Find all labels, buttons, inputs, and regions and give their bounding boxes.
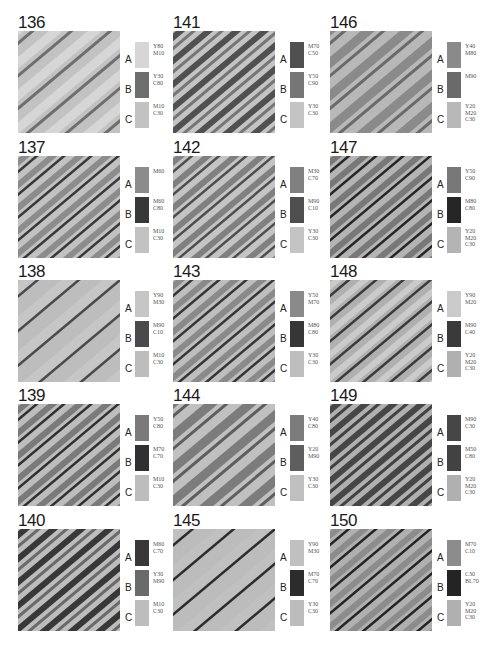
swatch-number: 143 [173, 263, 200, 280]
label-c: C [280, 487, 287, 498]
code-b: M90 C10 [308, 198, 319, 211]
code-a: Y50 M70 [308, 292, 319, 305]
swatch-a [290, 291, 304, 317]
swatch-card-137: 137 A M60 B M60 C80 C M10 C30 [18, 139, 178, 263]
label-b: B [437, 457, 444, 468]
stripe-pattern [18, 280, 120, 382]
swatch-number: 141 [173, 14, 200, 31]
stripe-pattern [173, 31, 275, 133]
label-c: C [280, 239, 287, 250]
code-c: Y30 C30 [308, 476, 318, 489]
swatch-a [135, 540, 149, 566]
swatch-card-138: 138 A Y90 M30 B M90 C10 C M10 C30 [18, 263, 178, 387]
code-c: Y30 C30 [308, 601, 318, 614]
swatch-number: 145 [173, 512, 200, 529]
label-c: C [125, 114, 132, 125]
label-c: C [125, 487, 132, 498]
code-c: Y30 C30 [308, 228, 318, 241]
swatch-b [290, 197, 304, 223]
label-a: A [125, 427, 132, 438]
swatch-a [290, 415, 304, 441]
label-c: C [437, 487, 444, 498]
swatch-b [290, 570, 304, 596]
swatch-number: 138 [18, 263, 45, 280]
label-b: B [437, 84, 444, 95]
label-b: B [125, 582, 132, 593]
swatch-number: 136 [18, 14, 45, 31]
code-b: M60 C80 [153, 198, 164, 211]
code-a: M70 C10 [465, 541, 476, 554]
label-b: B [437, 582, 444, 593]
code-b: M90 C40 [465, 322, 476, 335]
code-b: Y30 C80 [153, 73, 163, 86]
swatch-c [135, 475, 149, 501]
stripe-pattern [173, 280, 275, 382]
swatch-number: 137 [18, 139, 45, 156]
stripe-pattern [18, 31, 120, 133]
label-b: B [125, 84, 132, 95]
swatch-b [447, 570, 461, 596]
code-b: M90 [465, 73, 476, 80]
swatch-number: 140 [18, 512, 45, 529]
code-a: Y40 M80 [465, 43, 476, 56]
stripe-pattern [18, 404, 120, 506]
swatch-b [135, 197, 149, 223]
code-a: M60 [153, 168, 164, 175]
code-c: Y20 M20 C30 [465, 601, 476, 621]
swatch-b [447, 72, 461, 98]
swatch-card-140: 140 A M60 C70 B Y30 M90 C M10 C30 [18, 512, 178, 636]
swatch-number: 147 [330, 139, 357, 156]
code-a: Y40 C80 [308, 416, 318, 429]
label-c: C [437, 363, 444, 374]
code-a: M60 C70 [153, 541, 164, 554]
swatch-c [135, 600, 149, 626]
swatch-a [135, 42, 149, 68]
stripe-pattern [18, 156, 120, 258]
swatch-b [135, 321, 149, 347]
code-c: M10 C30 [153, 601, 164, 614]
swatch-card-141: 141 A M70 C50 B Y50 C90 C Y30 C30 [173, 14, 333, 138]
swatch-b [447, 321, 461, 347]
swatch-card-145: 145 A Y90 M30 B M70 C70 C Y30 C30 [173, 512, 333, 636]
code-c: Y30 C30 [308, 103, 318, 116]
swatch-number: 139 [18, 387, 45, 404]
swatch-a [447, 540, 461, 566]
label-c: C [280, 114, 287, 125]
stripe-pattern [18, 529, 120, 631]
label-b: B [437, 333, 444, 344]
swatch-c [135, 351, 149, 377]
swatch-card-149: 149 A M90 C30 B M50 C80 C Y20 M20 C30 [330, 387, 490, 511]
swatch-card-139: 139 A Y50 C80 B M70 C70 C M10 C30 [18, 387, 178, 511]
label-b: B [280, 582, 287, 593]
swatch-a [290, 42, 304, 68]
code-b: M80 C80 [308, 322, 319, 335]
code-b: M90 C10 [153, 322, 164, 335]
label-b: B [280, 333, 287, 344]
swatch-card-143: 143 A Y50 M70 B M80 C80 C Y30 C30 [173, 263, 333, 387]
code-c: M10 C30 [153, 476, 164, 489]
label-b: B [280, 84, 287, 95]
label-a: A [125, 54, 132, 65]
code-a: Y80 M10 [153, 43, 164, 56]
swatch-c [447, 351, 461, 377]
label-c: C [125, 612, 132, 623]
code-a: Y90 M30 [153, 292, 164, 305]
stripe-pattern [330, 31, 432, 133]
swatch-a [135, 167, 149, 193]
swatch-b [290, 445, 304, 471]
code-c: Y20 M20 C30 [465, 228, 476, 248]
stripe-pattern [330, 280, 432, 382]
swatch-a [290, 540, 304, 566]
swatch-a [447, 415, 461, 441]
swatch-c [447, 475, 461, 501]
code-b: Y30 M90 [153, 571, 164, 584]
label-c: C [125, 239, 132, 250]
swatch-card-142: 142 A M30 C70 B M90 C10 C Y30 C30 [173, 139, 333, 263]
code-b: M80 C80 [465, 198, 476, 211]
swatch-a [290, 167, 304, 193]
label-b: B [125, 209, 132, 220]
label-a: A [280, 427, 287, 438]
swatch-c [290, 351, 304, 377]
label-a: A [437, 179, 444, 190]
code-c: M10 C30 [153, 228, 164, 241]
